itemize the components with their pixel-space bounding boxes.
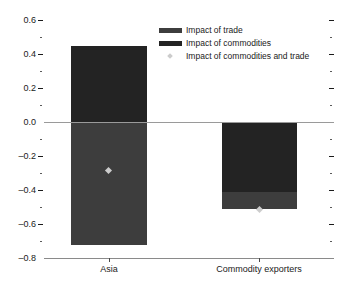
y-axis-tick-label: 0.4	[23, 50, 36, 59]
zero-baseline	[44, 122, 334, 123]
y-axis-minor-tick	[40, 241, 42, 242]
legend-item-commodities: Impact of commodities	[157, 37, 309, 49]
y-axis-tick-label: 0.2	[23, 84, 36, 93]
chart-container: 0.6 0.4 0.2 0.0 –0.2 –0.4 –0.6 –0.8	[0, 0, 343, 281]
legend-label: Impact of commodities	[183, 38, 271, 49]
y-axis-minor-tick	[40, 37, 42, 38]
y-axis-minor-tick	[40, 207, 42, 208]
y-axis-minor-tick	[40, 139, 42, 140]
y-axis-right-major-tick	[329, 54, 334, 55]
y-axis-major-tick	[38, 224, 43, 225]
y-axis-right-minor-tick	[330, 241, 332, 242]
y-axis-tick-label: 0.0	[23, 118, 36, 127]
y-axis-major-tick	[38, 190, 43, 191]
legend-label: Impact of trade	[183, 25, 243, 36]
y-axis-minor-tick	[40, 105, 42, 106]
y-axis-major-tick	[38, 54, 43, 55]
y-axis-right-minor-tick	[330, 71, 332, 72]
legend-swatch-icon	[159, 28, 182, 33]
y-axis-minor-tick	[40, 71, 42, 72]
y-axis-tick-label: 0.6	[23, 16, 36, 25]
x-axis-label-asia: Asia	[79, 264, 139, 274]
legend-swatch-wrap	[157, 28, 183, 33]
legend-label: Impact of commodities and trade	[183, 51, 309, 62]
x-axis-line	[44, 258, 334, 259]
y-axis-major-tick	[38, 156, 43, 157]
chart-legend: Impact of trade Impact of commodities Im…	[157, 24, 309, 63]
x-axis-tick	[109, 258, 110, 262]
y-axis-right-major-tick	[329, 88, 334, 89]
legend-item-commodities-and-trade: Impact of commodities and trade	[157, 50, 309, 62]
bar-asia-trade	[71, 123, 147, 245]
legend-swatch-icon	[159, 41, 182, 46]
y-axis-major-tick	[38, 88, 43, 89]
y-axis-tick-label: –0.6	[18, 220, 36, 229]
bar-commodity-exporters-commodities	[222, 123, 297, 192]
legend-swatch-wrap	[157, 41, 183, 46]
y-axis-right-minor-tick	[330, 105, 332, 106]
y-axis-major-tick	[38, 20, 43, 21]
y-axis-right-major-tick	[329, 156, 334, 157]
legend-marker-wrap	[157, 54, 183, 58]
y-axis-right-major-tick	[329, 20, 334, 21]
y-axis-right-major-tick	[329, 190, 334, 191]
y-axis-tick-label: –0.4	[18, 186, 36, 195]
y-axis-right-minor-tick	[330, 207, 332, 208]
y-axis-minor-tick	[40, 173, 42, 174]
legend-item-trade: Impact of trade	[157, 24, 309, 36]
y-axis-tick-label: –0.8	[18, 254, 36, 263]
y-axis-tick-label: –0.2	[18, 152, 36, 161]
y-axis-right-minor-tick	[330, 37, 332, 38]
legend-diamond-marker-icon	[167, 53, 173, 59]
y-axis-right-minor-tick	[330, 173, 332, 174]
y-axis-right-major-tick	[329, 224, 334, 225]
x-axis-tick	[259, 258, 260, 262]
y-axis-label-group: 0.6 0.4 0.2 0.0 –0.2 –0.4 –0.6 –0.8	[0, 0, 36, 281]
y-axis-right-minor-tick	[330, 139, 332, 140]
bar-asia-commodities	[71, 46, 147, 122]
x-axis-label-commodity-exporters: Commodity exporters	[209, 264, 309, 274]
